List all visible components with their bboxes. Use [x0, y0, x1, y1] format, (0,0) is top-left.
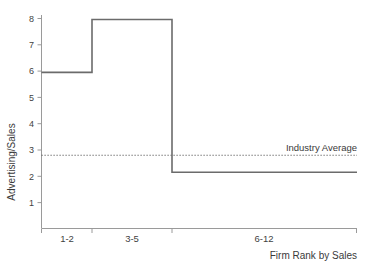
x-category-label-3: 6-12 [254, 233, 273, 244]
y-tick-label-7: 7 [29, 40, 34, 50]
x-axis-ticks [42, 229, 357, 234]
y-tick-label-5: 5 [29, 93, 34, 103]
advertising-sales-step-chart: 8 7 6 5 4 3 2 1 1-2 3-5 6-12 Industry Av… [0, 0, 368, 267]
y-tick-label-6: 6 [29, 66, 34, 76]
industry-average-label: Industry Average [286, 142, 357, 153]
y-axis-ticks [38, 19, 42, 203]
x-category-label-1: 1-2 [60, 233, 74, 244]
y-tick-label-8: 8 [29, 14, 34, 24]
y-tick-label-2: 2 [29, 172, 34, 182]
x-axis-title: Firm Rank by Sales [270, 250, 357, 261]
x-category-label-2: 3-5 [125, 233, 139, 244]
y-tick-label-1: 1 [29, 198, 34, 208]
y-tick-label-4: 4 [29, 119, 34, 129]
y-axis-title: Advertising/Sales [6, 123, 17, 200]
y-tick-label-3: 3 [29, 145, 34, 155]
chart-figure: 8 7 6 5 4 3 2 1 1-2 3-5 6-12 Industry Av… [0, 0, 368, 267]
